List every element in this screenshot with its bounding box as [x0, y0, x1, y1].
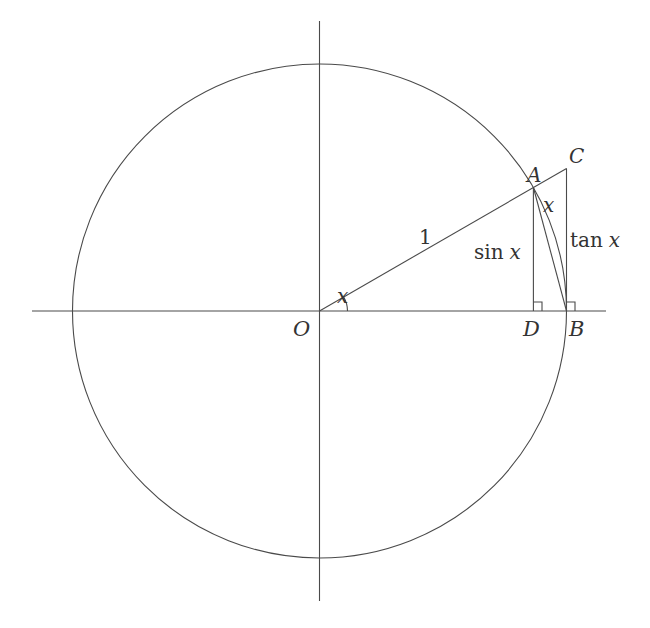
tan-var: x	[609, 228, 620, 252]
label-d: D	[522, 317, 540, 341]
diagram-svg: O A C D B 1 x x sinx tanx	[0, 0, 650, 628]
label-radius-one: 1	[419, 225, 432, 249]
sin-fn: sin	[474, 240, 504, 264]
right-angle-mark-d	[533, 302, 542, 311]
tan-fn: tan	[570, 228, 603, 252]
unit-circle-diagram: O A C D B 1 x x sinx tanx	[0, 0, 650, 628]
label-sin-x: sinx	[474, 240, 521, 264]
label-a: A	[525, 163, 541, 187]
label-b: B	[568, 317, 584, 341]
radius-line-oc	[320, 168, 567, 311]
sin-var: x	[510, 240, 521, 264]
right-angle-mark-b	[567, 302, 576, 311]
label-c: C	[569, 144, 584, 168]
label-arc-x: x	[543, 193, 554, 217]
label-angle-x: x	[337, 284, 348, 308]
label-tan-x: tanx	[570, 228, 620, 252]
label-o: O	[293, 317, 310, 341]
